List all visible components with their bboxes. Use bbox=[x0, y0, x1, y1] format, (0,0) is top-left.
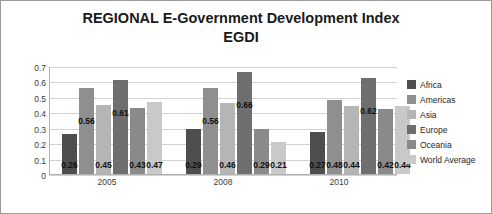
legend-swatch bbox=[407, 125, 416, 134]
bar[interactable]: 0.43 bbox=[130, 108, 145, 174]
legend-swatch bbox=[407, 80, 416, 89]
bar-value-label: 0.56 bbox=[78, 116, 95, 126]
bar[interactable]: 0.62 bbox=[361, 78, 376, 174]
plot-area: 00.10.20.30.40.50.60.7 0.260.560.450.610… bbox=[49, 67, 397, 175]
bar[interactable]: 0.45 bbox=[96, 105, 111, 174]
bar[interactable]: 0.21 bbox=[271, 142, 286, 174]
y-axis-tick-label: 0.4 bbox=[34, 109, 46, 119]
y-axis-tick-label: 0.3 bbox=[34, 125, 46, 135]
bar-value-label: 0.62 bbox=[360, 106, 377, 116]
y-axis-tick-label: 0.2 bbox=[34, 140, 46, 150]
bar-value-label: 0.66 bbox=[236, 100, 253, 110]
bar[interactable]: 0.29 bbox=[186, 129, 201, 174]
legend-item[interactable]: Americas bbox=[407, 94, 485, 105]
legend-label: Asia bbox=[420, 110, 437, 120]
x-axis-label: 2005 bbox=[49, 177, 165, 187]
bar-value-label: 0.29 bbox=[185, 160, 202, 170]
legend-item[interactable]: Africa bbox=[407, 79, 485, 90]
bar[interactable]: 0.29 bbox=[254, 129, 269, 174]
bar-groups: 0.260.560.450.610.430.470.290.560.460.66… bbox=[50, 67, 397, 174]
bar[interactable]: 0.66 bbox=[237, 72, 252, 174]
bar-value-label: 0.26 bbox=[61, 160, 78, 170]
legend-label: Europe bbox=[420, 125, 447, 135]
y-axis-tick-label: 0.5 bbox=[34, 94, 46, 104]
chart-container: REGIONAL E-Government Development Index … bbox=[0, 0, 492, 214]
bar[interactable]: 0.27 bbox=[310, 132, 325, 174]
bar[interactable]: 0.56 bbox=[203, 88, 218, 174]
legend-label: Americas bbox=[420, 95, 455, 105]
bar-value-label: 0.47 bbox=[146, 160, 163, 170]
legend-label: Oceania bbox=[420, 140, 452, 150]
bar-group: 0.270.480.440.620.420.44 bbox=[298, 67, 422, 174]
x-axis-label: 2010 bbox=[281, 177, 397, 187]
bar[interactable]: 0.56 bbox=[79, 88, 94, 174]
bar[interactable]: 0.42 bbox=[378, 109, 393, 174]
legend-item[interactable]: Oceania bbox=[407, 139, 485, 150]
bar[interactable]: 0.47 bbox=[147, 102, 162, 175]
bar[interactable]: 0.61 bbox=[113, 80, 128, 174]
bar-value-label: 0.21 bbox=[270, 160, 287, 170]
y-axis-tick-label: 0.6 bbox=[34, 78, 46, 88]
bar-group: 0.260.560.450.610.430.47 bbox=[50, 67, 174, 174]
bar-value-label: 0.61 bbox=[112, 108, 129, 118]
chart-title-line1: REGIONAL E-Government Development Index bbox=[41, 9, 441, 28]
legend-label: Africa bbox=[420, 80, 442, 90]
bar-value-label: 0.44 bbox=[343, 160, 360, 170]
bar-value-label: 0.45 bbox=[95, 160, 112, 170]
bar[interactable]: 0.44 bbox=[344, 106, 359, 174]
legend-swatch bbox=[407, 110, 416, 119]
legend-label: World Average bbox=[420, 155, 475, 165]
bar-value-label: 0.29 bbox=[253, 160, 270, 170]
legend-item[interactable]: Europe bbox=[407, 124, 485, 135]
chart-title-line2: EGDI bbox=[41, 28, 441, 47]
bar-group: 0.290.560.460.660.290.21 bbox=[174, 67, 298, 174]
legend-swatch bbox=[407, 95, 416, 104]
chart-title: REGIONAL E-Government Development Index … bbox=[41, 9, 441, 47]
bar-value-label: 0.42 bbox=[377, 160, 394, 170]
gridline: 0 bbox=[50, 175, 397, 176]
legend-swatch bbox=[407, 155, 416, 164]
y-axis-tick-label: 0.1 bbox=[34, 156, 46, 166]
bar[interactable]: 0.48 bbox=[327, 100, 342, 174]
bar-value-label: 0.56 bbox=[202, 116, 219, 126]
legend-swatch bbox=[407, 140, 416, 149]
chart-legend: AfricaAmericasAsiaEuropeOceaniaWorld Ave… bbox=[407, 79, 485, 169]
y-axis-tick-label: 0 bbox=[41, 171, 46, 181]
bar[interactable]: 0.46 bbox=[220, 103, 235, 174]
legend-item[interactable]: World Average bbox=[407, 154, 485, 165]
legend-item[interactable]: Asia bbox=[407, 109, 485, 120]
bar-value-label: 0.43 bbox=[129, 160, 146, 170]
bar[interactable]: 0.26 bbox=[62, 134, 77, 174]
y-axis-tick-label: 0.7 bbox=[34, 63, 46, 73]
x-axis-label: 2008 bbox=[165, 177, 281, 187]
bar-value-label: 0.46 bbox=[219, 160, 236, 170]
bar-value-label: 0.48 bbox=[326, 160, 343, 170]
bar-value-label: 0.27 bbox=[309, 160, 326, 170]
x-axis-labels: 200520082010 bbox=[49, 177, 397, 187]
